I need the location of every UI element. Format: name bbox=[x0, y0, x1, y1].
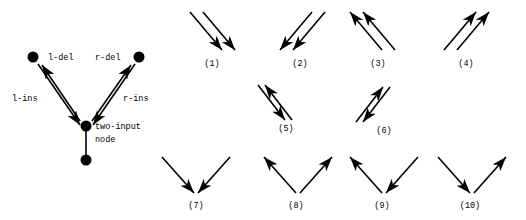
node-center bbox=[81, 121, 92, 132]
case-1-arrow-a bbox=[190, 12, 222, 50]
case-3-caption: (3) bbox=[370, 59, 385, 69]
case-8: (8) bbox=[264, 157, 332, 211]
label-two-input-node-line1: two-input bbox=[95, 122, 141, 132]
edge-l-del bbox=[42, 65, 80, 121]
case-9-arrow-left-out bbox=[350, 157, 382, 193]
figure-canvas: l-del r-del l-ins r-ins two-input node (… bbox=[0, 0, 526, 220]
case-8-arrow-left-out bbox=[264, 157, 296, 193]
case-9-arrow-right-in bbox=[386, 157, 418, 193]
case-6: (6) bbox=[356, 87, 392, 136]
case-10-arrow-right-out bbox=[474, 157, 506, 193]
case-7: (7) bbox=[162, 157, 230, 211]
label-l-ins: l-ins bbox=[12, 94, 38, 104]
case-3: (3) bbox=[350, 12, 395, 69]
case-7-arrow-left-in bbox=[162, 157, 194, 193]
case-5-arrow-up-left bbox=[265, 85, 292, 120]
case-9-caption: (9) bbox=[374, 201, 389, 211]
node-top-left bbox=[28, 52, 39, 63]
node-top-right bbox=[134, 52, 145, 63]
case-3-arrow-b bbox=[363, 12, 395, 50]
label-l-del: l-del bbox=[48, 53, 74, 63]
case-3-arrow-a bbox=[350, 12, 382, 50]
case-6-arrow-down-left bbox=[363, 87, 390, 122]
case-10-caption: (10) bbox=[460, 201, 480, 211]
node-bottom bbox=[81, 155, 92, 166]
case-4-arrow-b bbox=[457, 12, 489, 50]
case-10: (10) bbox=[438, 157, 506, 211]
case-5-caption: (5) bbox=[278, 124, 293, 134]
case-8-arrow-right-out bbox=[300, 157, 332, 193]
case-7-caption: (7) bbox=[188, 201, 203, 211]
case-9: (9) bbox=[350, 157, 418, 211]
case-4: (4) bbox=[444, 12, 489, 69]
case-2-arrow-a bbox=[280, 12, 312, 50]
case-4-arrow-a bbox=[444, 12, 476, 50]
case-1-arrow-b bbox=[203, 12, 235, 50]
case-1-caption: (1) bbox=[204, 59, 219, 69]
case-10-arrow-left-in bbox=[438, 157, 470, 193]
label-r-del: r-del bbox=[95, 53, 121, 63]
case-4-caption: (4) bbox=[458, 59, 473, 69]
case-7-arrow-right-in bbox=[198, 157, 230, 193]
case-6-caption: (6) bbox=[376, 126, 391, 136]
case-2-arrow-b bbox=[293, 12, 325, 50]
case-5-arrow-down-right bbox=[258, 85, 285, 120]
edge-l-ins bbox=[38, 64, 80, 125]
case-8-caption: (8) bbox=[288, 201, 303, 211]
figure-svg: l-del r-del l-ins r-ins two-input node (… bbox=[0, 0, 526, 220]
case-5: (5) bbox=[258, 85, 294, 134]
case-1: (1) bbox=[190, 12, 235, 69]
label-r-ins: r-ins bbox=[123, 94, 149, 104]
case-6-arrow-up-right bbox=[356, 87, 383, 122]
case-2: (2) bbox=[280, 12, 325, 69]
two-input-node-diagram: l-del r-del l-ins r-ins two-input node bbox=[12, 52, 149, 166]
edge-r-del bbox=[92, 65, 131, 121]
case-2-caption: (2) bbox=[292, 59, 307, 69]
label-two-input-node-line2: node bbox=[95, 135, 115, 145]
